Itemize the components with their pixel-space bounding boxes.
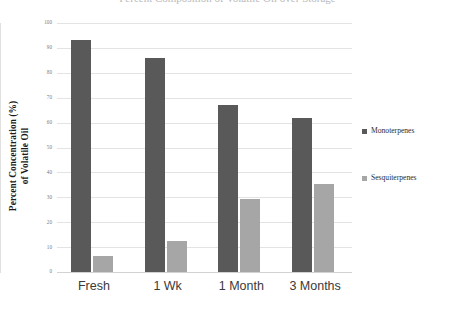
- gridline: [57, 272, 352, 273]
- bar-monoterpenes[interactable]: [292, 118, 312, 272]
- gridline: [57, 73, 352, 74]
- y-axis-tick-label: 0: [26, 269, 52, 274]
- bar-sesquiterpenes[interactable]: [314, 184, 334, 272]
- gridline: [57, 98, 352, 99]
- bar-chart: Percent Composition of Volatile Oil over…: [0, 0, 455, 313]
- y-axis-tick-label: 90: [26, 45, 52, 50]
- legend-swatch-icon: [362, 129, 367, 134]
- legend-swatch-icon: [362, 176, 367, 181]
- legend-label: Monoterpenes: [371, 126, 414, 136]
- bar-monoterpenes[interactable]: [218, 105, 238, 272]
- y-axis-tick-label: 10: [26, 245, 52, 250]
- y-axis-tick-label: 40: [26, 170, 52, 175]
- chart-title: Percent Composition of Volatile Oil over…: [0, 0, 455, 9]
- y-axis-tick-label: 80: [26, 70, 52, 75]
- y-axis-tick-label: 50: [26, 145, 52, 150]
- y-axis-title-line1: Percent Concentration (%): [8, 101, 18, 211]
- y-axis-tick-label: 30: [26, 195, 52, 200]
- gridline: [57, 23, 352, 24]
- y-axis-tick-label: 70: [26, 95, 52, 100]
- legend: Monoterpenes Sesquiterpenes: [362, 126, 455, 220]
- y-axis-tick-label: 20: [26, 220, 52, 225]
- y-axis-title-line2: of Volatile Oil: [20, 128, 30, 184]
- bar-sesquiterpenes[interactable]: [240, 199, 260, 272]
- x-axis-tick-label: 1 Month: [205, 279, 279, 294]
- legend-label: Sesquiterpenes: [371, 173, 417, 183]
- bar-sesquiterpenes[interactable]: [167, 241, 187, 272]
- legend-item-monoterpenes[interactable]: Monoterpenes: [362, 126, 455, 138]
- x-axis-tick-label: 1 Wk: [131, 279, 205, 294]
- bar-monoterpenes[interactable]: [71, 40, 91, 272]
- bar-sesquiterpenes[interactable]: [93, 256, 113, 272]
- legend-item-sesquiterpenes[interactable]: Sesquiterpenes: [362, 173, 455, 185]
- gridline: [57, 48, 352, 49]
- plot-area: [57, 23, 352, 272]
- y-axis-tick-label: 60: [26, 120, 52, 125]
- bar-monoterpenes[interactable]: [145, 58, 165, 272]
- y-axis-line: [0, 23, 1, 273]
- x-axis-tick-label: Fresh: [57, 279, 131, 294]
- y-axis-tick-label: 100: [26, 20, 52, 25]
- x-axis-tick-label: 3 Months: [278, 279, 352, 294]
